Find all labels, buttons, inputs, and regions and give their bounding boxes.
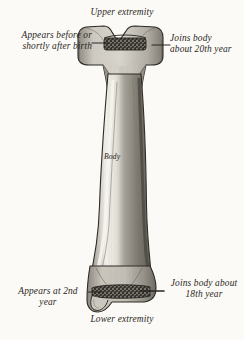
label-appears-before-birth: Appears before or shortly after birth: [4, 30, 92, 52]
tibial-shaft: [86, 70, 156, 286]
label-appears-at-2nd-year: Appears at 2nd year: [6, 286, 90, 308]
label-upper-extremity: Upper extremity: [0, 7, 244, 18]
label-body: Body: [104, 153, 148, 161]
distal-epiphysis: [84, 262, 164, 312]
label-joins-body-20th-year: Joins body about 20th year: [170, 33, 242, 55]
label-lower-extremity: Lower extremity: [0, 314, 244, 325]
label-joins-body-18th-year: Joins body about 18th year: [164, 278, 244, 300]
